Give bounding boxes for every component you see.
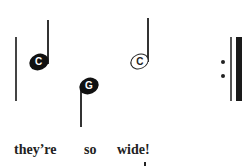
measure-start-line: [15, 37, 17, 101]
cropped-glyph: [144, 162, 146, 166]
thin-barline: [230, 37, 232, 101]
repeat-dot-upper: [221, 60, 225, 64]
lyric-word: wide!: [117, 142, 150, 158]
thick-barline: [236, 37, 242, 101]
note-letter: C: [136, 57, 143, 67]
note-letter: G: [85, 81, 93, 91]
lyric-word: so: [84, 142, 96, 158]
note-letter: C: [35, 57, 42, 67]
repeat-dot-lower: [221, 74, 225, 78]
lyric-word: they’re: [14, 142, 57, 158]
